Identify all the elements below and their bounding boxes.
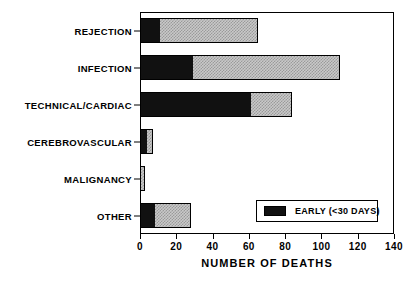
x-axis-tick	[285, 234, 286, 239]
x-axis-tick	[213, 234, 214, 239]
y-axis-label: TECHNICAL/CARDIAC	[0, 99, 132, 110]
bar-segment-early	[140, 92, 251, 117]
bar-segment-early	[140, 55, 193, 80]
x-axis-tick	[176, 234, 177, 239]
bar-row	[140, 55, 340, 80]
x-axis-tick-label: 140	[385, 241, 403, 252]
y-axis-label: INFECTION	[0, 62, 132, 73]
x-axis-tick	[358, 234, 359, 239]
x-axis-tick-label: 0	[137, 241, 143, 252]
x-axis-tick-label: 20	[170, 241, 182, 252]
bar-segment-late	[160, 18, 258, 43]
bar-row	[140, 203, 191, 228]
bar-segment-late	[140, 166, 145, 191]
x-axis-tick-labels: 020406080100120140	[0, 241, 420, 255]
x-axis-tick	[321, 234, 322, 239]
bar-segment-late	[147, 129, 152, 154]
bar-row	[140, 18, 258, 43]
bar-chart: REJECTIONINFECTIONTECHNICAL/CARDIACCEREB…	[0, 0, 420, 282]
x-axis-tick	[394, 234, 395, 239]
y-axis-label: MALIGNANCY	[0, 173, 132, 184]
legend-label-early: EARLY (<30 DAYS)	[295, 206, 380, 216]
y-axis-category-labels: REJECTIONINFECTIONTECHNICAL/CARDIACCEREB…	[0, 12, 132, 234]
bar-segment-late	[155, 203, 191, 228]
x-axis-tick	[249, 234, 250, 239]
bar-segment-late	[193, 55, 340, 80]
x-axis-ticks	[140, 234, 394, 240]
y-axis-label: CEREBROVASCULAR	[0, 136, 132, 147]
x-axis-tick-label: 80	[279, 241, 291, 252]
y-axis-label: OTHER	[0, 210, 132, 221]
y-axis-label: REJECTION	[0, 25, 132, 36]
legend-swatch-early	[264, 206, 286, 216]
bar-segment-early	[140, 129, 147, 154]
x-axis-tick-label: 40	[207, 241, 219, 252]
bar-segment-early	[140, 203, 155, 228]
bar-segment-early	[140, 18, 160, 43]
bar-segment-late	[251, 92, 293, 117]
bar-row	[140, 129, 153, 154]
x-axis-tick-label: 100	[312, 241, 330, 252]
x-axis-tick	[140, 234, 141, 239]
bar-row	[140, 166, 145, 191]
x-axis-tick-label: 120	[349, 241, 367, 252]
x-axis-tick-label: 60	[243, 241, 255, 252]
x-axis-title: NUMBER OF DEATHS	[140, 257, 394, 269]
bar-row	[140, 92, 292, 117]
legend: EARLY (<30 DAYS)	[256, 200, 378, 222]
